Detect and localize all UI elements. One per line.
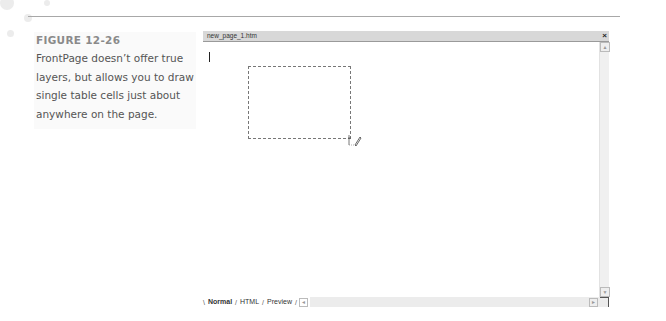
- view-tabs-bar: \ Normal / HTML / Preview / ◄ ►: [203, 297, 609, 307]
- tab-html[interactable]: HTML: [237, 297, 262, 307]
- tab-preview[interactable]: Preview: [264, 297, 295, 307]
- editor-canvas[interactable]: [203, 42, 599, 297]
- decorative-dot: [7, 30, 14, 37]
- close-icon[interactable]: ×: [602, 31, 607, 41]
- tab-normal[interactable]: Normal: [205, 297, 235, 307]
- caption-text: FrontPage doesn’t offer true layers, but…: [36, 49, 196, 123]
- figure-caption: FIGURE 12-26 FrontPage doesn’t offer tru…: [34, 32, 196, 129]
- tab-separator: /: [295, 299, 297, 306]
- document-window: new_page_1.htm × ▲ ▼ \ Normal / HTML / P…: [203, 31, 609, 307]
- document-tab-title[interactable]: new_page_1.htm: [207, 31, 257, 41]
- top-divider: [28, 16, 620, 17]
- layout-table-cell[interactable]: [248, 66, 351, 139]
- vertical-scrollbar[interactable]: ▲ ▼: [599, 42, 609, 297]
- decorative-dot: [0, 0, 14, 10]
- scroll-up-button[interactable]: ▲: [600, 42, 610, 52]
- pencil-draw-cursor-icon: [348, 135, 362, 147]
- resize-corner[interactable]: [600, 297, 609, 307]
- scroll-right-button[interactable]: ►: [589, 298, 598, 307]
- document-tab-bar: new_page_1.htm ×: [203, 31, 609, 42]
- decorative-dot: [44, 0, 50, 6]
- figure-label: FIGURE 12-26: [36, 34, 196, 46]
- scroll-down-button[interactable]: ▼: [600, 287, 610, 297]
- scroll-left-button[interactable]: ◄: [299, 298, 308, 307]
- text-caret: [209, 52, 210, 62]
